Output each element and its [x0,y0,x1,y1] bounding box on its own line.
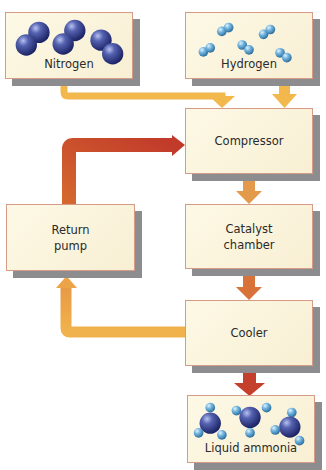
arrow-hydrogen-to-compressor [272,80,297,108]
arrow-cooler-to-ammonia [234,372,265,396]
arrow-return-pump-to-compressor [69,135,185,204]
return-pump-label-line1: Return [51,222,89,238]
catalyst-chamber-box: Catalyst chamber [185,204,313,269]
arrow-catalyst-to-cooler [236,275,262,300]
arrow-cooler-to-return-pump [56,276,185,332]
haber-process-diagram: Nitrogen Hydrogen Compressor Catalyst ch… [0,0,326,470]
catalyst-label-line2: chamber [224,237,275,253]
hydrogen-box: Hydrogen [185,12,313,79]
liquid-ammonia-label: Liquid ammonia [205,440,297,456]
cooler-box: Cooler [185,300,313,366]
liquid-ammonia-box: Liquid ammonia [187,395,315,463]
nitrogen-box: Nitrogen [5,12,133,79]
return-pump-box: Return pump [6,204,135,271]
compressor-label: Compressor [215,133,284,149]
compressor-box: Compressor [185,108,313,174]
arrow-nitrogen-to-compressor [64,78,235,108]
arrow-compressor-to-catalyst [236,180,262,204]
hydrogen-label: Hydrogen [221,56,277,72]
nitrogen-label: Nitrogen [44,56,93,72]
cooler-label: Cooler [230,325,267,341]
catalyst-label-line1: Catalyst [225,221,272,237]
return-pump-label-line2: pump [54,238,87,254]
